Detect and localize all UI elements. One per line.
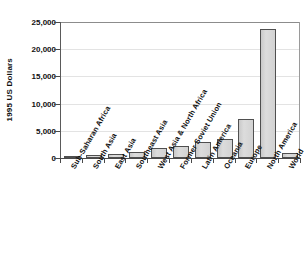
y-axis-tick-mark [54,22,60,23]
y-axis-tick-mark [54,76,60,77]
y-axis-tick-label: 20,000 [16,45,56,54]
bar-slot [257,22,279,158]
bar-slot [236,22,258,158]
y-axis-tick-mark [54,131,60,132]
x-axis-tick-mark [60,159,61,163]
y-axis-tick-labels: 05,00010,00015,00020,00025,000 [12,0,56,258]
y-axis-tick-label: 10,000 [16,99,56,108]
y-axis-tick-mark [54,49,60,50]
y-axis-tick-mark [54,104,60,105]
bar-slot [61,22,83,158]
bar-chart: 1995 US Dollars 05,00010,00015,00020,000… [0,0,308,258]
bar [260,29,276,158]
y-axis-tick-label: 25,000 [16,18,56,27]
y-axis-tick-label: 15,000 [16,72,56,81]
y-axis-tick-label: 5,000 [16,126,56,135]
y-axis-tick-label: 0 [16,154,56,163]
